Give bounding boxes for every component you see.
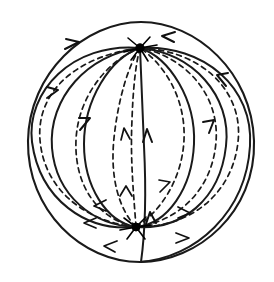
trajectory-solid-4 xyxy=(140,48,145,262)
sink-node-dot xyxy=(136,44,144,52)
sphere-figure xyxy=(0,0,274,282)
trajectory-dashed-4 xyxy=(131,48,140,227)
arrowhead-solid-2 xyxy=(47,87,58,98)
arrowhead-dashed-7 xyxy=(178,207,190,218)
back-hemisphere-trajectories xyxy=(40,48,239,227)
trajectory-solid-3 xyxy=(84,48,140,227)
arrowheads-dashed-group xyxy=(84,128,190,252)
arrowhead-dashed-2 xyxy=(120,186,132,196)
arrowhead-dashed-8 xyxy=(176,233,189,243)
arrowhead-dashed-3 xyxy=(159,180,170,192)
arrowhead-dashed-1 xyxy=(121,128,130,140)
trajectory-dashed-1 xyxy=(40,48,140,227)
arrowhead-solid-7 xyxy=(162,32,175,42)
arrowhead-dashed-6 xyxy=(104,241,117,252)
trajectory-dashed-2 xyxy=(76,48,140,227)
arrowhead-solid-5 xyxy=(203,120,214,133)
source-node-dot xyxy=(132,223,140,231)
sphere-phase-portrait-svg xyxy=(0,0,274,282)
